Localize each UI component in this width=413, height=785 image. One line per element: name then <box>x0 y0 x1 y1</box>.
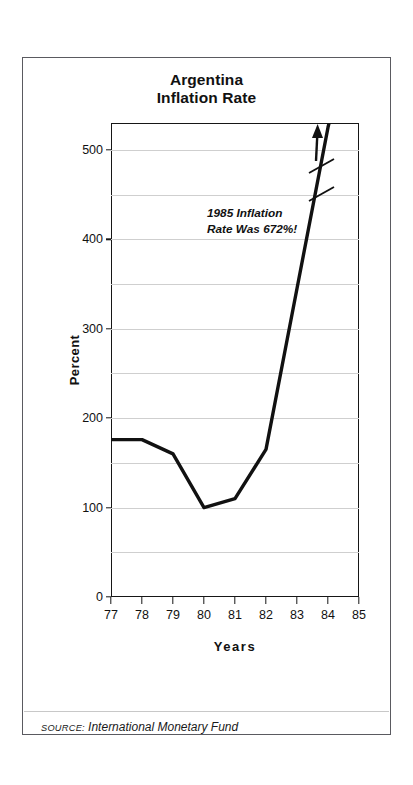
ytick-label-200: 200 <box>82 411 103 425</box>
source-value: International Monetary Fund <box>88 720 238 734</box>
xtick-label-78: 78 <box>135 608 149 622</box>
chart-title-line-2: Inflation Rate <box>23 89 390 107</box>
source-divider <box>24 711 389 712</box>
xtick-label-85: 85 <box>352 608 366 622</box>
xtick-mark-84 <box>327 597 328 604</box>
ytick-label-0: 0 <box>96 590 103 604</box>
xtick-label-77: 77 <box>104 608 118 622</box>
chart-annotation: 1985 Inflation Rate Was 672%! <box>207 206 297 237</box>
xtick-mark-82 <box>265 597 266 604</box>
chart-title-line-1: Argentina <box>23 71 390 89</box>
xtick-mark-77 <box>110 597 111 604</box>
ytick-label-300: 300 <box>82 322 103 336</box>
xtick-label-83: 83 <box>290 608 304 622</box>
x-axis-label: Years <box>111 639 359 654</box>
source-label: SOURCE: <box>41 723 85 733</box>
xtick-mark-80 <box>203 597 204 604</box>
annotation-line-1: 1985 Inflation <box>207 206 297 222</box>
xtick-label-84: 84 <box>321 608 335 622</box>
source-note: SOURCE: International Monetary Fund <box>41 720 238 734</box>
xtick-mark-83 <box>296 597 297 604</box>
axis-break-marks <box>309 159 334 201</box>
xtick-mark-85 <box>358 597 359 604</box>
ytick-label-400: 400 <box>82 232 103 246</box>
xtick-label-81: 81 <box>228 608 242 622</box>
ytick-label-100: 100 <box>82 501 103 515</box>
xtick-mark-79 <box>172 597 173 604</box>
xtick-label-82: 82 <box>259 608 273 622</box>
y-axis-label: Percent <box>67 335 82 386</box>
plot-area: 0 100 200 300 400 500 Percent 77 78 79 8… <box>111 123 359 597</box>
ytick-label-500: 500 <box>82 143 103 157</box>
xtick-label-79: 79 <box>166 608 180 622</box>
annotation-line-2: Rate Was 672%! <box>207 222 297 238</box>
figure-panel: Argentina Inflation Rate 0 100 200 300 4… <box>22 57 391 735</box>
xtick-mark-81 <box>234 597 235 604</box>
xtick-mark-78 <box>141 597 142 604</box>
chart-title: Argentina Inflation Rate <box>23 71 390 108</box>
data-series-line <box>111 123 359 597</box>
xtick-label-80: 80 <box>197 608 211 622</box>
